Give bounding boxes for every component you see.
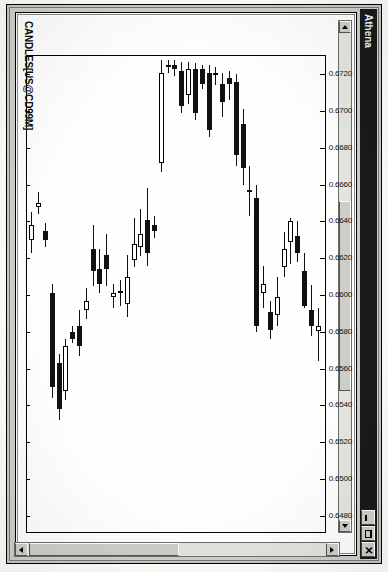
candle-body [316, 326, 321, 331]
price-tick-label: 0.6480 [329, 510, 352, 519]
price-tick-mark [320, 74, 325, 75]
candle-body [173, 65, 178, 69]
candle-body [98, 269, 103, 284]
candle-body [227, 78, 232, 84]
application-window: Athena ✕ [6, 4, 382, 564]
price-tick-mark [320, 111, 325, 112]
price-tick-mark [320, 369, 325, 370]
candle-body [36, 203, 41, 207]
close-icon: ✕ [363, 546, 374, 554]
scroll-down-button[interactable] [15, 543, 28, 556]
price-tick-mark [320, 221, 325, 222]
price-tick-mark [320, 185, 325, 186]
price-tick-mark [320, 148, 325, 149]
price-axis: 0.67200.67000.66800.66600.66400.66200.66… [326, 55, 352, 533]
candle-body [84, 301, 89, 310]
candle-body [179, 71, 184, 106]
chart-title: CANDLES[US@CD99M] [23, 21, 34, 130]
candle-body [248, 190, 253, 192]
price-tick-mark [27, 148, 30, 149]
minimize-icon [365, 515, 367, 521]
price-tick-mark [320, 516, 325, 517]
price-tick-label: 0.6720 [329, 69, 352, 78]
scroll-up-button[interactable] [326, 543, 339, 556]
price-tick-label: 0.6560 [329, 363, 352, 372]
price-tick-label: 0.6540 [329, 400, 352, 409]
candle-body [275, 297, 280, 315]
candle-body [125, 277, 130, 305]
candle-body [261, 284, 266, 293]
price-tick-label: 0.6660 [329, 179, 352, 188]
candle-body [254, 198, 259, 327]
candle-body [302, 271, 307, 306]
price-tick-mark [27, 332, 30, 333]
candle-body [186, 69, 191, 95]
price-tick-mark [320, 295, 325, 296]
minimize-button[interactable] [362, 510, 376, 525]
title-bar[interactable]: Athena ✕ [360, 9, 377, 559]
candle-body [138, 234, 143, 247]
candle-body [111, 293, 116, 297]
price-tick-label: 0.6520 [329, 437, 352, 446]
candle-body [234, 82, 239, 156]
candle-body [118, 291, 123, 293]
candle-body [213, 73, 218, 75]
scroll-left-button[interactable] [339, 21, 351, 33]
price-tick-mark [320, 332, 325, 333]
price-tick-label: 0.6500 [329, 473, 352, 482]
price-tick-label: 0.6640 [329, 216, 352, 225]
arrow-down-icon [20, 547, 24, 553]
price-tick-mark [27, 442, 30, 443]
price-tick-mark [27, 405, 30, 406]
arrow-up-icon [331, 547, 335, 553]
plot-area[interactable] [26, 55, 326, 533]
price-tick-label: 0.6620 [329, 253, 352, 262]
candle-body [77, 326, 82, 346]
candle-wick [215, 67, 216, 85]
vertical-scroll-thumb[interactable] [29, 543, 179, 556]
candle-body [200, 69, 205, 84]
candle-body [57, 363, 62, 409]
price-tick-mark [27, 516, 30, 517]
candle-body [70, 332, 75, 339]
window-title: Athena [363, 9, 374, 48]
candle-body [295, 236, 300, 253]
price-tick-mark [320, 405, 325, 406]
vertical-scrollbar[interactable] [14, 542, 340, 557]
candle-body [193, 69, 198, 113]
price-tick-mark [320, 479, 325, 480]
price-tick-mark [27, 185, 30, 186]
candle-body [220, 84, 225, 102]
candle-body [91, 249, 96, 271]
window-inner-frame: Athena ✕ [9, 7, 379, 561]
candle-body [288, 221, 293, 241]
price-tick-label: 0.6600 [329, 290, 352, 299]
close-button[interactable]: ✕ [362, 542, 376, 557]
candle-body [43, 231, 48, 240]
candle-body [159, 73, 164, 163]
price-tick-mark [27, 295, 30, 296]
candle-body [207, 73, 212, 130]
candle-body [132, 244, 137, 261]
candle-wick [140, 209, 141, 257]
rotated-ui-wrapper: Athena ✕ [0, 0, 388, 572]
candle-wick [229, 71, 230, 100]
candle-wick [318, 308, 319, 361]
maximize-button[interactable] [362, 526, 376, 541]
price-tick-mark [27, 479, 30, 480]
chart-child-inner: 0.67200.67000.66800.66600.66400.66200.66… [17, 14, 355, 554]
arrow-left-icon [342, 25, 348, 29]
candle-body [50, 293, 55, 387]
maximize-icon [365, 530, 372, 538]
candle-body [145, 220, 150, 253]
candle-body [104, 255, 109, 270]
scanned-page: Athena ✕ [0, 0, 388, 572]
candle-body [29, 225, 34, 240]
candle-body [282, 249, 287, 267]
candle-body [63, 346, 68, 390]
window-client-area: 0.67200.67000.66800.66600.66400.66200.66… [11, 9, 360, 559]
candle-body [309, 310, 314, 327]
price-tick-label: 0.6700 [329, 106, 352, 115]
price-tick-mark [27, 258, 30, 259]
candle-body [166, 65, 171, 67]
